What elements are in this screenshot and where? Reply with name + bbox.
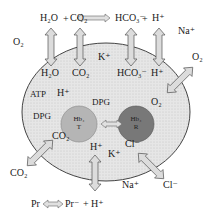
label-cl-in: Cl⁻: [125, 139, 140, 149]
label-co2-in-low: CO₂: [52, 131, 69, 141]
label-co2-in: CO₂: [72, 68, 89, 78]
label-na-top-right: Na⁺: [178, 26, 195, 36]
label-co2-out-vis: CO₂: [70, 13, 87, 23]
label-plus-1: +: [63, 14, 69, 24]
label-pr-minus: Pr⁻: [65, 199, 79, 209]
label-hb-r-line2: R: [126, 123, 146, 131]
label-na-bottom: Na⁺: [122, 180, 139, 190]
label-atp: ATP: [30, 89, 46, 99]
label-co2-left: CO₂: [10, 168, 27, 178]
label-hb-r-line1: Hb₄: [126, 115, 146, 123]
label-h-bottom-in: H⁺: [90, 142, 103, 152]
label-hb-t-line1: Hb₄: [69, 115, 89, 123]
label-plus-2: +: [142, 14, 148, 24]
label-cl-right: Cl⁻: [163, 180, 178, 190]
label-pr: Pr: [31, 199, 40, 209]
label-h-in: H⁺: [151, 68, 164, 78]
label-plus-bottom: +: [83, 199, 89, 209]
label-o2-left: O₂: [13, 37, 24, 47]
label-h2o-in: H₂O: [41, 68, 59, 78]
label-hco3-out: HCO₃⁻: [115, 13, 145, 23]
label-h-out: H⁺: [152, 13, 165, 23]
label-h2o-out: H₂O: [40, 13, 58, 23]
label-dpg-left: DPG: [33, 111, 51, 121]
label-hco3-in: HCO₃⁻: [117, 68, 147, 78]
equilibrium-arrow-pr: [43, 200, 63, 208]
rbc-diagram: H₂O + CO₂ CO₂ HCO₃⁻ + H⁺ O₂ Na⁺ O₂ CO₂ N…: [0, 0, 212, 215]
label-h-bottom-out: H⁺: [91, 199, 104, 209]
label-h-left-in: H⁺: [57, 88, 70, 98]
label-hb-t-line2: T: [69, 123, 89, 131]
label-o2-in: O₂: [151, 97, 162, 107]
label-k-top: K⁺: [98, 52, 111, 62]
arrow-h2o-membrane: [45, 28, 57, 66]
label-dpg-top: DPG: [92, 97, 110, 107]
arrow-h-membrane: [153, 28, 165, 66]
label-o2-right: O₂: [192, 52, 203, 62]
label-hb-r: Hb₄ R: [126, 115, 146, 131]
label-hb-t: Hb₄ T: [69, 115, 89, 131]
label-k-bottom-in: K⁺: [108, 149, 121, 159]
